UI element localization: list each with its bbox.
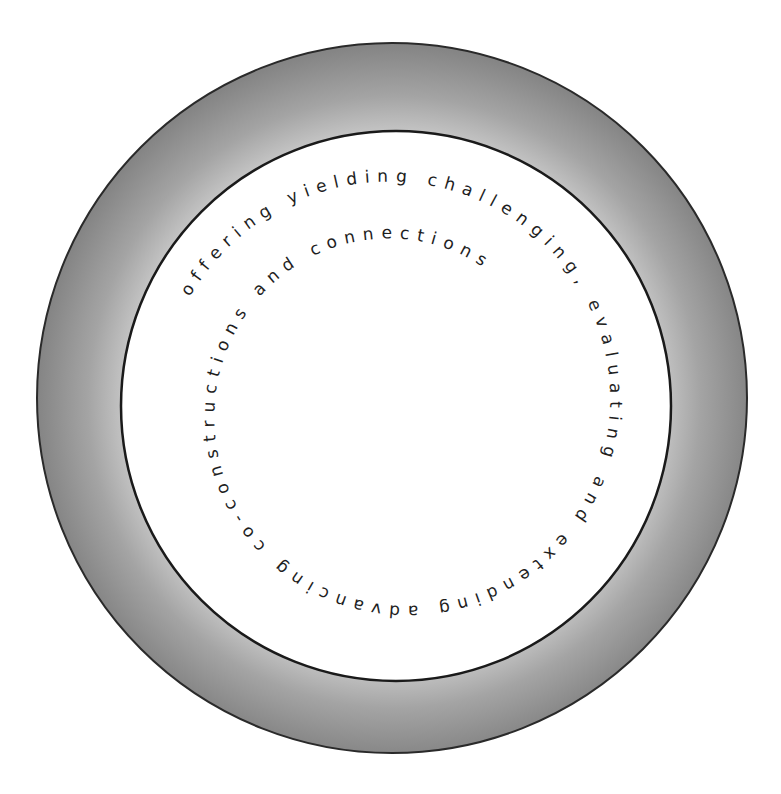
spiral-ring-diagram: offering yielding challenging, evaluatin… [0, 0, 781, 794]
